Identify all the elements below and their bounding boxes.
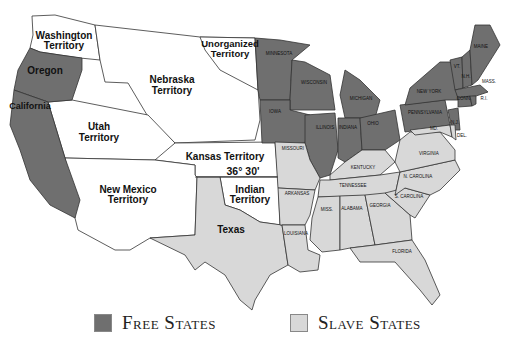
svg-text:Oregon: Oregon [27,65,63,76]
svg-text:N. CAROLINA: N. CAROLINA [404,174,433,179]
svg-text:VIRGINIA: VIRGINIA [419,151,439,156]
svg-text:DEL.: DEL. [457,133,467,138]
us-map: Washington Territory Unorganized Territo… [0,0,508,339]
svg-text:Territory: Territory [230,194,271,205]
svg-text:R.I.: R.I. [480,96,487,101]
svg-text:36° 30': 36° 30' [227,165,260,177]
svg-text:N.J.: N.J. [451,120,459,125]
svg-text:MISSOURI: MISSOURI [282,146,304,151]
svg-text:MICHIGAN: MICHIGAN [350,96,373,101]
legend-slave: Slave States [290,312,421,334]
svg-text:VT.: VT. [454,64,461,69]
svg-text:Kansas Territory: Kansas Territory [186,151,265,162]
svg-text:PENNSYLVANIA: PENNSYLVANIA [408,110,442,115]
svg-text:INDIANA: INDIANA [339,125,357,130]
svg-text:ALABAMA: ALABAMA [341,206,362,211]
michigan [340,70,380,118]
svg-text:MD.: MD. [430,126,438,131]
free-swatch-icon [94,314,112,332]
legend-free: Free States [94,312,216,334]
slave-states-label: Slave States [318,312,421,334]
wisconsin [290,60,335,110]
svg-text:Territory: Territory [44,40,85,51]
svg-text:CONN.: CONN. [457,96,472,101]
svg-text:KENTUCKY: KENTUCKY [351,165,376,170]
free-states-label: Free States [122,312,216,334]
svg-text:N.H.: N.H. [462,74,471,79]
svg-text:MAINE: MAINE [474,44,488,49]
svg-text:MINNESOTA: MINNESOTA [266,51,292,56]
svg-text:ILLINOIS: ILLINOIS [316,125,335,130]
delaware [450,125,456,140]
svg-text:GEORGIA: GEORGIA [369,203,390,208]
svg-text:ARKANSAS: ARKANSAS [285,191,310,196]
new-york [405,62,458,105]
svg-text:LOUISIANA: LOUISIANA [284,231,308,236]
svg-text:MASS.: MASS. [482,79,496,84]
svg-text:California: California [9,101,52,111]
svg-text:Nebraska: Nebraska [149,74,194,85]
svg-text:MISS.: MISS. [321,207,333,212]
slave-swatch-icon [290,314,308,332]
svg-text:S. CAROLINA: S. CAROLINA [395,194,424,199]
svg-text:Territory: Territory [211,48,250,59]
svg-text:Territory: Territory [152,85,193,96]
mississippi [310,196,340,252]
svg-text:FLORIDA: FLORIDA [392,249,412,254]
svg-text:Texas: Texas [217,224,245,235]
svg-text:Territory: Territory [79,132,120,143]
svg-text:WISCONSIN: WISCONSIN [301,80,327,85]
svg-text:OHIO: OHIO [367,121,379,126]
svg-text:Territory: Territory [108,194,149,205]
svg-text:Utah: Utah [88,121,110,132]
svg-text:NEW YORK: NEW YORK [417,89,441,94]
maine [470,25,500,85]
svg-text:IOWA: IOWA [269,109,281,114]
svg-text:TENNESSEE: TENNESSEE [339,183,366,188]
